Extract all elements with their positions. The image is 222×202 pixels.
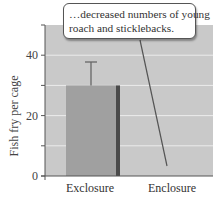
bar-exclosure [66, 85, 120, 176]
callout-line-1: …decreased numbers of young [69, 7, 191, 21]
category-label-enclosure: Enclosure [148, 181, 196, 195]
y-axis [41, 25, 45, 180]
callout-line-2: roach and sticklebacks. [69, 21, 191, 35]
y-tick-0: 0 [32, 169, 38, 183]
annotation-callout: …decreased numbers of young roach and st… [63, 3, 196, 39]
y-tick-40: 40 [26, 48, 38, 62]
category-label-exclosure: Exclosure [66, 181, 114, 195]
y-tick-20: 20 [26, 109, 38, 123]
y-axis-label: Fish fry per cage [7, 76, 21, 157]
